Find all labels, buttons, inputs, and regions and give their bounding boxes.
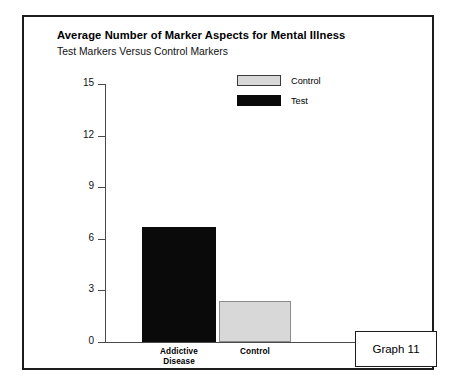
y-tick-12: 12 (98, 136, 105, 137)
y-tick-label-0: 0 (88, 335, 94, 346)
y-axis-line (105, 84, 106, 342)
x-label-addictive-disease: Addictive Disease (142, 347, 216, 367)
y-tick-6: 6 (98, 239, 105, 240)
y-tick-15: 15 (98, 84, 105, 85)
graph-number-box: Graph 11 (355, 331, 437, 367)
chart-title: Average Number of Marker Aspects for Men… (57, 29, 345, 41)
chart-subtitle: Test Markers Versus Control Markers (57, 46, 228, 57)
y-tick-label-12: 12 (83, 129, 94, 140)
x-label-addictive-disease-line1: Addictive (142, 347, 216, 357)
bar-control (219, 301, 291, 342)
chart-frame: Average Number of Marker Aspects for Men… (22, 15, 434, 370)
y-tick-label-9: 9 (88, 180, 94, 191)
y-tick-label-6: 6 (88, 232, 94, 243)
x-axis-line (105, 342, 377, 343)
x-label-control-line1: Control (219, 347, 291, 357)
y-tick-3: 3 (98, 290, 105, 291)
y-tick-label-15: 15 (83, 77, 94, 88)
bar-addictive-disease-test (142, 227, 216, 342)
y-tick-9: 9 (98, 187, 105, 188)
graph-number-label: Graph 11 (372, 343, 419, 355)
x-label-addictive-disease-line2: Disease (142, 357, 216, 367)
plot-area: 15 12 9 6 3 0 Addictive Disease Control (105, 84, 377, 342)
y-tick-0: 0 (98, 342, 105, 343)
x-label-control: Control (219, 347, 291, 357)
y-tick-label-3: 3 (88, 283, 94, 294)
